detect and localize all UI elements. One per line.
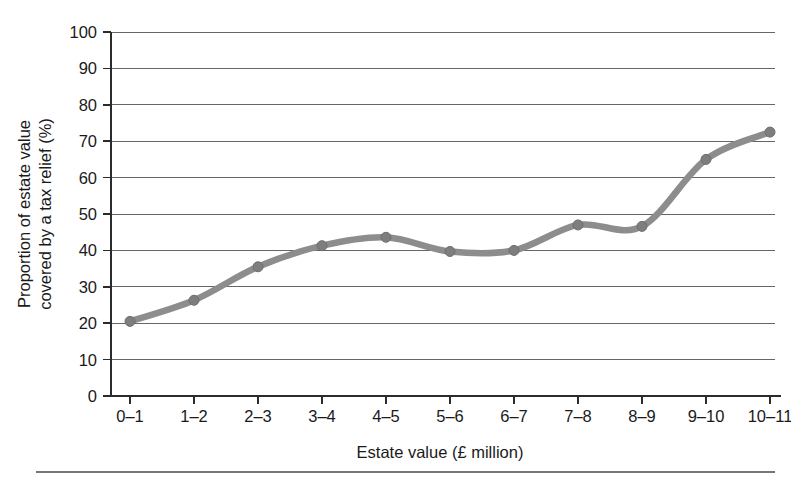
data-point-2-3 — [253, 262, 263, 272]
y-tick-label-30: 30 — [79, 278, 97, 296]
y-tick-label-90: 90 — [79, 59, 97, 77]
data-point-3-4 — [317, 241, 327, 251]
y-axis-tick-group: 0102030405060708090100 — [69, 23, 111, 405]
y-tick-label-10: 10 — [79, 351, 97, 369]
data-point-1-2 — [189, 295, 199, 305]
x-tick-label-6: 6–7 — [500, 407, 528, 425]
x-tick-label-4: 4–5 — [372, 407, 400, 425]
x-tick-label-2: 2–3 — [244, 407, 272, 425]
series-marker-group — [125, 127, 775, 326]
series-line-proportion — [130, 132, 770, 321]
chart-figure: Proportion of estate value covered by a … — [0, 0, 791, 484]
data-point-8-9 — [637, 221, 647, 231]
data-point-9-10 — [701, 154, 711, 164]
y-tick-label-60: 60 — [79, 169, 97, 187]
y-tick-label-20: 20 — [79, 314, 97, 332]
y-tick-label-50: 50 — [79, 205, 97, 223]
y-tick-label-100: 100 — [69, 23, 97, 41]
x-tick-label-3: 3–4 — [308, 407, 336, 425]
y-axis-title-line-1: Proportion of estate value — [15, 120, 33, 308]
x-tick-label-10: 10–11 — [748, 407, 791, 425]
data-point-10-11 — [765, 127, 775, 137]
data-point-5-6 — [445, 246, 455, 256]
x-tick-label-1: 1–2 — [180, 407, 208, 425]
x-tick-label-7: 7–8 — [564, 407, 592, 425]
x-axis-title: Estate value (£ million) — [357, 443, 524, 461]
data-point-7-8 — [573, 220, 583, 230]
data-point-0-1 — [125, 316, 135, 326]
y-tick-label-40: 40 — [79, 241, 97, 259]
x-tick-label-9: 9–10 — [688, 407, 725, 425]
x-axis-tick-group: 0–11–22–33–44–55–66–77–88–99–1010–11 — [116, 396, 791, 425]
line-chart: Proportion of estate value covered by a … — [0, 0, 791, 484]
y-tick-label-80: 80 — [79, 96, 97, 114]
x-tick-label-5: 5–6 — [436, 407, 464, 425]
x-tick-label-8: 8–9 — [628, 407, 656, 425]
y-tick-label-0: 0 — [88, 387, 97, 405]
y-axis-title-line-2: covered by a tax relief (%) — [36, 118, 54, 310]
data-point-4-5 — [381, 232, 391, 242]
y-axis-title: Proportion of estate value covered by a … — [15, 118, 54, 310]
y-tick-label-70: 70 — [79, 132, 97, 150]
x-tick-label-0: 0–1 — [116, 407, 144, 425]
data-point-6-7 — [509, 245, 519, 255]
